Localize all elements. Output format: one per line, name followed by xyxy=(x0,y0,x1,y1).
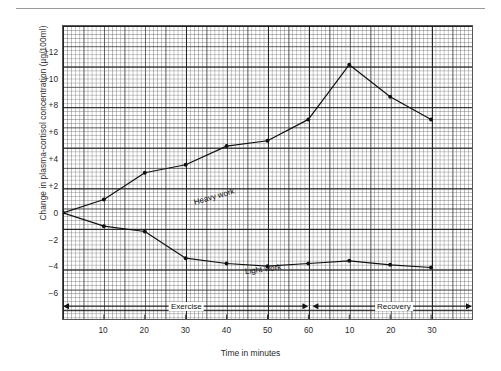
y-tick-neg4: −4 xyxy=(12,261,58,271)
y-tick-2: +2 xyxy=(12,181,58,191)
data-point-marker xyxy=(306,117,310,121)
x-tick-0: 10 xyxy=(98,325,107,335)
x-tick-5: 60 xyxy=(304,325,313,335)
data-point-marker xyxy=(225,262,229,266)
data-point-marker xyxy=(102,197,106,201)
y-tick-4: +4 xyxy=(12,154,58,164)
x-tick-4: 50 xyxy=(263,325,272,335)
x-tick-3: 40 xyxy=(222,325,231,335)
y-tick-neg2: −2 xyxy=(12,235,58,245)
data-series-layer xyxy=(63,26,472,320)
data-point-marker xyxy=(388,95,392,99)
x-tick-8: 30 xyxy=(427,325,436,335)
annotation-recovery-label: Recovery xyxy=(375,302,413,311)
data-point-marker xyxy=(388,263,392,267)
data-point-marker xyxy=(429,266,433,270)
y-tick-neg6: −6 xyxy=(12,288,58,298)
x-tick-7: 20 xyxy=(386,325,395,335)
plot-area: Heavy work Light work Exercise Recovery xyxy=(62,25,473,320)
x-tick-6: 10 xyxy=(345,325,354,335)
data-point-marker xyxy=(225,144,229,148)
data-point-marker xyxy=(143,230,147,234)
data-point-marker xyxy=(347,259,351,263)
series-line-heavy-work xyxy=(63,65,431,213)
series-line-light-work xyxy=(63,213,431,268)
x-tick-2: 30 xyxy=(181,325,190,335)
header-divider xyxy=(16,8,485,9)
data-point-marker xyxy=(184,256,188,260)
data-point-marker xyxy=(143,171,147,175)
data-point-marker xyxy=(266,139,270,143)
x-axis-title: Time in minutes xyxy=(0,348,501,358)
data-point-marker xyxy=(306,262,310,266)
y-tick-6: +6 xyxy=(12,127,58,137)
x-axis-tick-labels: 102030405060102030 xyxy=(62,322,473,342)
x-tick-1: 20 xyxy=(140,325,149,335)
data-point-marker xyxy=(184,163,188,167)
y-tick-8: +8 xyxy=(12,100,58,110)
data-point-marker xyxy=(347,63,351,67)
y-axis-tick-labels: +12+10+8+6+4+20−2−4−6 xyxy=(8,25,58,320)
y-tick-10: +10 xyxy=(12,74,58,84)
data-point-marker xyxy=(429,117,433,121)
chart-figure: Change in plasma-cortisol concentration … xyxy=(0,0,501,371)
annotation-exercise-label: Exercise xyxy=(169,302,204,311)
y-tick-12: +12 xyxy=(12,47,58,57)
y-tick-0: 0 xyxy=(12,208,58,218)
data-point-marker xyxy=(102,224,106,228)
